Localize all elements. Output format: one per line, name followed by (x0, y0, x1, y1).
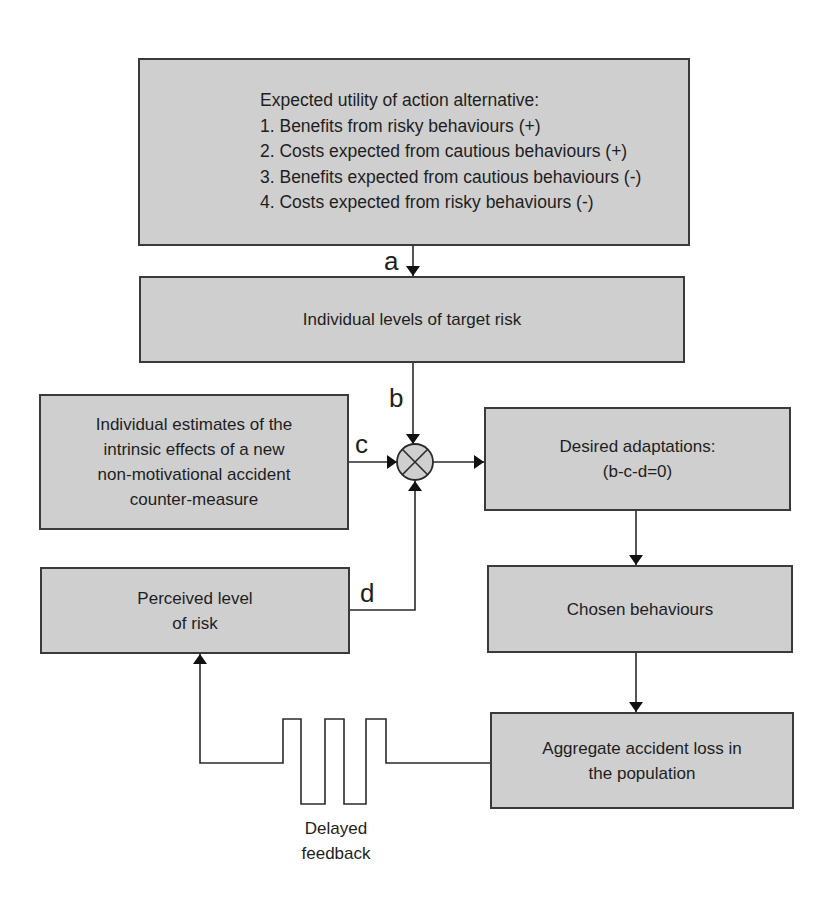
desired-line: Desired adaptations: (560, 434, 716, 459)
edge-label-d: d (360, 580, 374, 606)
delayed-feedback-caption: Delayed feedback (276, 816, 396, 866)
countermeasure-line: Individual estimates of the (96, 412, 293, 437)
arrow-d (349, 481, 415, 610)
utility-item: 1. Benefits from risky behaviours (+) (260, 114, 641, 140)
utility-item: 2. Costs expected from cautious behaviou… (260, 139, 641, 165)
countermeasure-box: Individual estimates of the intrinsic ef… (39, 394, 349, 530)
perceived-risk-box: Perceived level of risk (40, 567, 350, 654)
aggregate-loss-box: Aggregate accident loss in the populatio… (490, 712, 794, 809)
expected-utility-box: Expected utility of action alternative: … (138, 58, 690, 246)
aggregate-line: the population (542, 761, 741, 786)
edge-label-a: a (384, 248, 398, 274)
target-risk-label: Individual levels of target risk (303, 307, 521, 332)
chosen-label: Chosen behaviours (567, 597, 713, 622)
perceived-line: Perceived level (137, 586, 252, 611)
desired-line: (b-c-d=0) (560, 459, 716, 484)
target-risk-box: Individual levels of target risk (139, 276, 685, 363)
edge-label-b: b (389, 385, 403, 411)
chosen-behaviours-box: Chosen behaviours (487, 565, 793, 653)
countermeasure-line: non-motivational accident (96, 462, 293, 487)
comparator-icon (397, 444, 433, 480)
delayed-feedback-line (200, 654, 490, 804)
edge-label-c: c (355, 431, 368, 457)
utility-item: 4. Costs expected from risky behaviours … (260, 190, 641, 216)
delay-line: feedback (276, 841, 396, 866)
delay-line: Delayed (276, 816, 396, 841)
countermeasure-line: intrinsic effects of a new (96, 437, 293, 462)
utility-item: 3. Benefits expected from cautious behav… (260, 165, 641, 191)
perceived-line: of risk (137, 611, 252, 636)
countermeasure-line: counter-measure (96, 487, 293, 512)
utility-heading: Expected utility of action alternative: (260, 88, 641, 114)
desired-adaptations-box: Desired adaptations: (b-c-d=0) (484, 407, 791, 511)
aggregate-line: Aggregate accident loss in (542, 736, 741, 761)
